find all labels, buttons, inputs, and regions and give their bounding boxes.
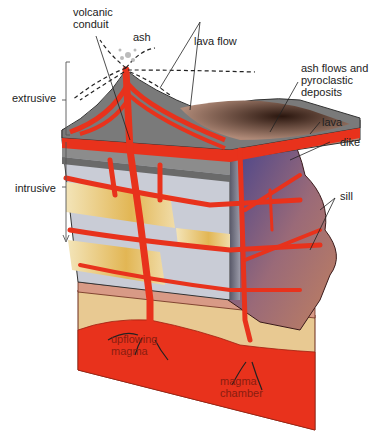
label-extrusive: extrusive (12, 92, 56, 104)
label-sill: sill (340, 190, 353, 202)
label-magma-chamber: magma chamber (220, 375, 263, 399)
label-lava-flow: lava flow (194, 35, 237, 47)
label-intrusive: intrusive (15, 182, 56, 194)
label-volcanic-conduit: volcanic conduit (73, 6, 113, 30)
label-dike: dike (340, 136, 360, 148)
label-lava: lava (322, 116, 342, 128)
label-ash-flows-pyroclastic-deposits: ash flows and pyroclastic deposits (301, 62, 368, 98)
ash-spray-arrows (72, 40, 255, 100)
front-face-strata (62, 140, 240, 300)
label-upflowing-magma: upflowing magma (111, 333, 157, 357)
label-ash: ash (133, 31, 151, 43)
ash-plume (119, 49, 137, 63)
